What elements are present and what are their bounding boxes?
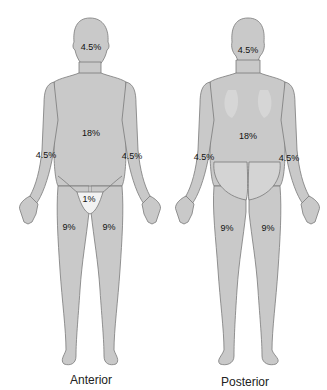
posterior-trunk-label: 18% bbox=[239, 131, 257, 141]
posterior-right-leg-label: 9% bbox=[220, 223, 233, 233]
posterior-caption: Posterior bbox=[221, 375, 269, 389]
anterior-right-arm-label: 4.5% bbox=[36, 150, 57, 160]
anterior-right-leg bbox=[57, 186, 89, 365]
anterior-left-arm-label: 4.5% bbox=[122, 151, 143, 161]
anterior-head-label: 4.5% bbox=[81, 42, 102, 52]
posterior-head-label: 4.5% bbox=[238, 45, 259, 55]
posterior-left-arm bbox=[281, 82, 313, 206]
anterior-left-leg bbox=[91, 186, 123, 365]
anterior-caption: Anterior bbox=[70, 373, 112, 387]
anterior-right-arm bbox=[26, 82, 58, 206]
body-diagram bbox=[0, 0, 327, 390]
posterior-right-arm bbox=[182, 82, 214, 206]
posterior-left-leg-label: 9% bbox=[261, 223, 274, 233]
anterior-left-leg-label: 9% bbox=[102, 222, 115, 232]
posterior-left-arm-label: 4.5% bbox=[279, 153, 300, 163]
posterior-figure bbox=[175, 18, 319, 365]
anterior-right-leg-label: 9% bbox=[62, 222, 75, 232]
anterior-perineum-label: 1% bbox=[82, 194, 95, 204]
posterior-right-arm-label: 4.5% bbox=[194, 152, 215, 162]
posterior-left-leg bbox=[249, 186, 281, 365]
posterior-right-leg bbox=[213, 186, 246, 365]
anterior-figure bbox=[19, 18, 160, 365]
anterior-left-arm bbox=[122, 82, 154, 206]
anterior-trunk-label: 18% bbox=[82, 128, 100, 138]
